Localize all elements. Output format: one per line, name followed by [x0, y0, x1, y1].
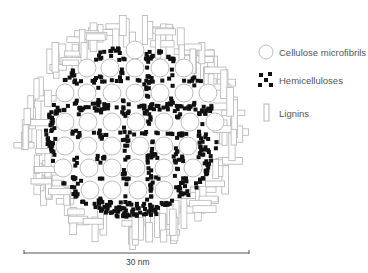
hemicellulose-square [149, 195, 153, 199]
cellulose-microfibril [103, 113, 121, 131]
hemicellulose-square [149, 106, 153, 110]
cellulose-microfibril [101, 59, 119, 77]
hemicellulose-square [73, 102, 77, 106]
hemicellulose-square [140, 131, 144, 135]
hemicellulose-square [146, 177, 150, 181]
legend-item-cellulose: Cellulose microfibrils [258, 44, 366, 60]
hemicellulose-square [105, 209, 109, 213]
hemicellulose-square [71, 176, 75, 180]
lignin-rod [142, 16, 147, 45]
hemicellulose-square [204, 109, 208, 113]
hemicellulose-square [156, 131, 160, 135]
hemicellulose-square [208, 109, 212, 113]
hemicellulose-square [132, 133, 136, 137]
legend-item-hemicellulose: Hemicelluloses [258, 72, 343, 88]
hemicellulose-square [137, 206, 141, 210]
cellulose-microfibril [151, 59, 169, 77]
hemicellulose-square [173, 174, 177, 178]
lignin-rod [44, 90, 51, 106]
hemicellulose-square [44, 129, 48, 133]
hemicellulose-square [149, 175, 153, 179]
hemicellulose-square [121, 213, 125, 217]
hemicellulose-square [122, 99, 126, 103]
hemicellulose-square [53, 137, 57, 141]
lignin-rod [81, 43, 87, 61]
cellulose-microfibril [54, 159, 72, 177]
hemicellulose-square [147, 210, 151, 214]
hemicellulose-square [201, 176, 205, 180]
hemicellulose-square [202, 105, 206, 109]
hemicellulose-square [98, 177, 102, 181]
hemicellulose-square [92, 131, 96, 135]
hemicellulose-square [123, 114, 127, 118]
hemicellulose-square [109, 54, 113, 58]
hemicellulose-square [166, 107, 170, 111]
hemicellulose-square [171, 84, 175, 88]
hemicellulose-square [207, 150, 211, 154]
hemicellulose-square [121, 138, 125, 142]
hemicellulose-square [125, 177, 129, 181]
hemicellulose-square [94, 58, 98, 62]
hemicellulose-square [155, 104, 159, 108]
hemicellulose-square [118, 75, 122, 79]
hemicellulose-square [197, 155, 201, 159]
legend-label-lignin: Lignins [279, 108, 309, 119]
hemicellulose-square [174, 161, 178, 165]
hemicellulose-square [147, 112, 151, 116]
hemicellulose-square [170, 68, 174, 72]
hemicellulose-square [99, 110, 103, 114]
hemicellulose-square [168, 101, 172, 105]
legend-item-lignin: Lignins [263, 103, 309, 123]
hemicellulose-square [188, 104, 192, 108]
lignin-rod [155, 29, 175, 35]
hemicellulose-square [119, 79, 123, 83]
hemicellulose-square [182, 79, 186, 83]
cellulose-microfibril [78, 84, 96, 102]
hemicellulose-square [183, 184, 187, 188]
hemicellulose-square [179, 191, 183, 195]
hemicellulose-square [127, 102, 131, 106]
cellulose-microfibril [206, 113, 224, 131]
lignin-rod [151, 41, 174, 47]
lignin-rod [206, 181, 225, 187]
microfibril-cross-section [0, 0, 368, 273]
hemicellulose-square [103, 103, 107, 107]
hemicellulose-square [150, 76, 154, 80]
hemicellulose-square [142, 104, 146, 108]
hemicellulose-square [125, 144, 129, 148]
hemicellulose-square [197, 130, 201, 134]
hemicellulose-square [77, 131, 81, 135]
hemicellulose-square [123, 130, 127, 134]
hemicellulose-square [209, 154, 213, 158]
hemicellulose-square [120, 68, 124, 72]
hemicellulose-square [118, 51, 122, 55]
cellulose-microfibril [131, 137, 149, 155]
cellulose-microfibril [56, 113, 74, 131]
hemicellulose-square [121, 105, 125, 109]
scale-bar [24, 250, 249, 254]
hemicellulose-square [54, 111, 58, 115]
hemicellulose-square [72, 73, 76, 77]
hemicellulose-square [184, 132, 188, 136]
hemicellulose-square [197, 111, 201, 115]
hemicellulose-square [199, 148, 203, 152]
hemicellulose-square [87, 105, 91, 109]
hemicellulose-square [50, 121, 54, 125]
cellulose-microfibril [80, 159, 98, 177]
hemicellulose-square [179, 181, 183, 185]
hemicellulose-square [93, 202, 97, 206]
hemicellulose-square [47, 113, 51, 117]
hemicellulose-square [154, 212, 158, 216]
cellulose-microfibril [56, 84, 74, 102]
hemicellulose-square [44, 133, 48, 137]
hemicellulose-square [145, 94, 149, 98]
cellulose-microfibril [179, 137, 197, 155]
hemicellulose-square [119, 200, 123, 204]
hemicellulose-square [63, 181, 67, 185]
hemicellulose-square [99, 56, 103, 60]
hemicellulose-square [145, 55, 149, 59]
hemicellulose-square [122, 126, 126, 130]
hemicellulose-square [126, 76, 130, 80]
hemicellulose-square [154, 175, 158, 179]
hemicellulose-square [97, 202, 101, 206]
